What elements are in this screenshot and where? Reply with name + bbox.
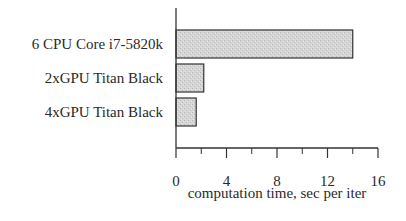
x-tick-label: 0 <box>172 173 180 189</box>
bar-1 <box>176 64 204 92</box>
category-label: 6 CPU Core i7-5820k <box>32 36 164 52</box>
bar-chart: 6 CPU Core i7-5820k2xGPU Titan Black4xGP… <box>0 0 406 221</box>
category-label: 4xGPU Titan Black <box>45 104 164 120</box>
bar-0 <box>176 30 353 58</box>
bars-group <box>176 30 353 126</box>
x-axis-ticks: 0481216 <box>172 148 386 189</box>
category-labels: 6 CPU Core i7-5820k2xGPU Titan Black4xGP… <box>32 36 164 120</box>
x-tick-label: 16 <box>371 173 387 189</box>
x-axis-label: computation time, sec per iter <box>188 185 367 201</box>
category-label: 2xGPU Titan Black <box>45 70 164 86</box>
bar-2 <box>176 98 196 126</box>
